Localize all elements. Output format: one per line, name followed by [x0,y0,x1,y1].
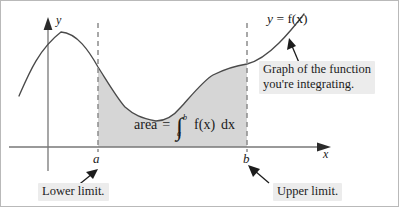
graph-callout: Graph of the function you're integrating… [259,61,375,94]
graph-callout-line2: you're integrating. [263,77,371,92]
upper-limit-arrow-shaft [255,171,269,183]
upper-limit-callout: Upper limit. [273,183,342,201]
upper-limit-tick-label: b [243,151,250,166]
area-equation: area = ∫ b a f(x) dx [134,113,235,138]
integral-symbol-group: ∫ b a [176,113,187,138]
figure-canvas [1,1,399,207]
lower-limit-callout-line1: Lower limit. [42,184,105,199]
upper-limit-arrowhead [248,165,260,177]
integral-upper-limit: b [183,113,187,122]
lower-limit-tick-label: a [93,151,100,166]
y-axis-label: y [56,13,61,27]
function-label-equals: = [276,11,284,26]
area-equals: = [162,117,170,134]
integral-area-figure: y x y = f(x) area = ∫ b a f(x) dx a b Gr… [0,0,399,207]
x-axis-label: x [323,147,328,161]
lower-limit-callout: Lower limit. [38,183,109,201]
graph-callout-line1: Graph of the function [263,62,371,77]
function-label: y = f(x) [267,11,308,27]
integral-sign: ∫ [176,117,183,137]
function-label-lhs: y [267,11,273,26]
graph-callout-arrowhead [287,38,296,50]
differential: dx [221,117,235,134]
integrand: f(x) [194,117,215,134]
upper-limit-callout-line1: Upper limit. [277,184,338,199]
area-word: area [134,117,157,134]
y-axis-arrowhead [44,17,53,30]
function-label-rhs: f(x) [287,11,307,26]
